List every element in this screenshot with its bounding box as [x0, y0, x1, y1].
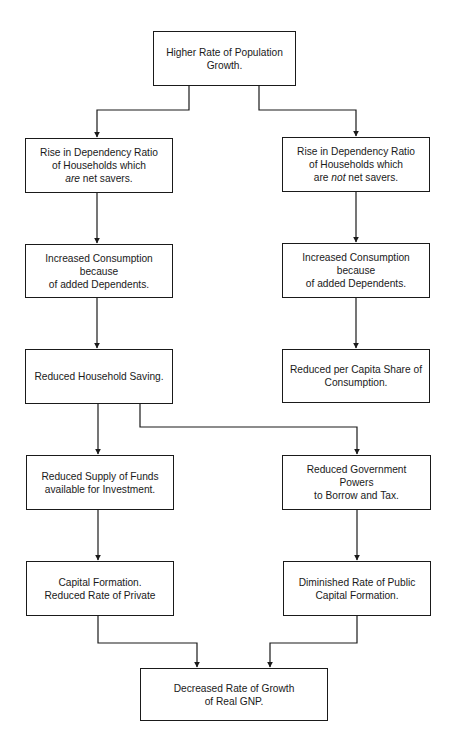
node-label: Reduced Household Saving. [34, 370, 163, 383]
node-reduced-supply-of-funds: Reduced Supply of Funds available for In… [26, 455, 174, 510]
node-label: Rise in Dependency Ratio of Households w… [40, 146, 158, 185]
node-label: Increased Consumption because of added D… [302, 251, 410, 290]
edge-n11-n12 [270, 615, 357, 667]
node-label: Rise in Dependency Ratio of Households w… [297, 145, 415, 184]
node-label: Higher Rate of Population Growth. [166, 46, 283, 72]
node-label: Reduced Government Powers to Borrow and … [289, 463, 424, 502]
node-label: Diminished Rate of Public Capital Format… [299, 576, 416, 602]
node-label: Decreased Rate of Growth of Real GNP. [174, 682, 295, 708]
node-label: Reduced per Capita Share of Consumption. [290, 363, 422, 389]
edge-n1-n3 [259, 85, 356, 136]
edge-n6-n9 [140, 403, 357, 454]
node-dependency-ratio-not-net-savers: Rise in Dependency Ratio of Households w… [282, 137, 430, 192]
node-increased-consumption-left: Increased Consumption because of added D… [25, 244, 173, 298]
node-label: Reduced Supply of Funds available for In… [41, 470, 158, 496]
node-higher-population-growth: Higher Rate of Population Growth. [153, 31, 296, 86]
node-decreased-real-gnp-growth: Decreased Rate of Growth of Real GNP. [140, 668, 328, 721]
edge-n1-n2 [97, 85, 189, 137]
flow-diagram: Higher Rate of Population Growth. Rise i… [0, 0, 454, 745]
node-reduced-government-powers: Reduced Government Powers to Borrow and … [282, 455, 431, 510]
node-dependency-ratio-net-savers: Rise in Dependency Ratio of Households w… [25, 138, 173, 193]
node-label: Capital Formation. Reduced Rate of Priva… [45, 576, 156, 602]
node-increased-consumption-right: Increased Consumption because of added D… [282, 243, 430, 298]
node-reduced-private-capital-formation: Capital Formation. Reduced Rate of Priva… [26, 561, 174, 616]
node-label: Increased Consumption because of added D… [45, 252, 153, 291]
edge-n10-n12 [98, 615, 197, 667]
node-diminished-public-capital-formation: Diminished Rate of Public Capital Format… [283, 561, 431, 616]
node-reduced-per-capita-consumption: Reduced per Capita Share of Consumption. [282, 349, 430, 403]
node-reduced-household-saving: Reduced Household Saving. [25, 349, 173, 404]
